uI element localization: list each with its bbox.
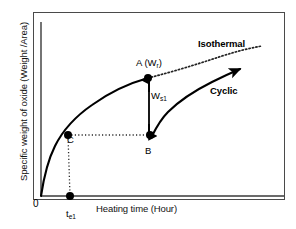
y-axis-title: Specific weight of oxide (Weight /Area) [18,7,29,197]
chart-figure: Specific weight of oxide (Weight /Area) … [0,0,296,229]
xtick-sub: e1 [69,213,76,220]
origin-label: 0 [33,198,39,209]
point-a-label: A (Wr) [136,57,162,68]
point-c-label: C [67,134,74,145]
isothermal-curve-dotted [148,46,262,78]
data-point-b [146,131,154,139]
point-a-close: ) [159,57,162,68]
point-b-label: B [145,145,151,156]
ws1-base: W [151,90,160,101]
oxidation-kinetics-plot [0,0,296,229]
xtick-label-te1: te1 [66,208,76,219]
cyclic-curve [152,69,240,136]
ws1-sub: s1 [160,95,167,102]
point-a-open: (W [142,57,157,68]
cyclic-curve-label: Cyclic [210,85,237,96]
isothermal-curve-solid [41,78,148,196]
data-point-xtick-te1 [66,192,74,200]
isothermal-curve-label: Isothermal [198,38,245,49]
x-axis-title: Heating time (Hour) [96,203,177,214]
point-a-sub: r [157,62,159,69]
data-point-a [144,74,152,82]
ws1-label: Ws1 [151,90,167,101]
